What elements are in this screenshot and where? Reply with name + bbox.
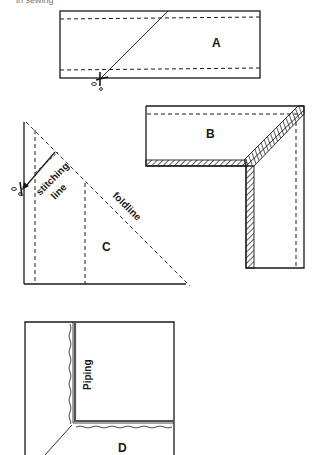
scissors-icon	[92, 72, 108, 90]
seam-allowance-horizontal	[146, 160, 246, 166]
label-b: B	[206, 127, 215, 141]
sewing-diagram: in sewing A B	[0, 0, 312, 455]
scissors-icon	[12, 182, 22, 196]
diagonal-cut-line	[100, 11, 168, 79]
mitre-line	[45, 425, 72, 455]
piping-label: Piping	[82, 359, 93, 390]
stitching-vertical	[69, 324, 71, 424]
stitching-horizontal	[76, 426, 172, 428]
foldline-label: foldline	[111, 190, 144, 223]
label-a: A	[212, 36, 221, 50]
figure-a: A	[60, 11, 260, 90]
figure-c: stitching line foldline C	[12, 122, 190, 286]
stitch-line-bottom	[60, 68, 260, 70]
label-c: C	[102, 240, 111, 254]
caption-fragment: in sewing	[16, 0, 54, 5]
figure-d: Piping D	[25, 322, 174, 455]
seam-allowance-vertical	[246, 166, 254, 268]
mitre-seam	[244, 106, 304, 166]
label-d: D	[118, 441, 127, 455]
foldline-dashed	[26, 122, 190, 286]
figure-b: B	[146, 106, 304, 268]
corner-outline	[25, 322, 174, 455]
